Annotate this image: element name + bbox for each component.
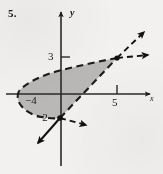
problem-number: 5. [8,8,17,19]
y-axis-label: y [70,8,74,18]
y-tick-label-3: 3 [48,51,54,62]
math-figure [0,0,163,174]
y-tick-label-neg2: −2 [36,112,48,123]
arrow-upper-diagonal [117,32,144,58]
x-tick-label-5: 5 [112,97,118,108]
x-axis-label: x [150,95,154,103]
arrow-lower-right [60,118,86,125]
x-tick-label-neg4: −4 [25,95,37,106]
arrow-upper-horizontal [117,55,148,58]
shaded-region [18,58,117,118]
